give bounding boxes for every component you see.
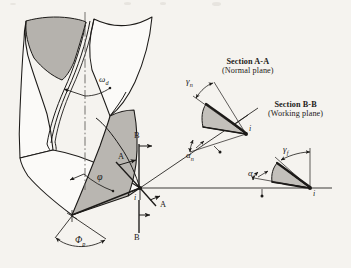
alpha-n-subscript: n [191,155,194,162]
section-b-clearance-angle-label: αf [248,168,255,181]
gamma-n-subscript: n [190,81,193,88]
section-a-rake-angle-arc [196,83,213,98]
section-a-alpha-dot-leader [214,146,220,152]
scan-artifact-1 [10,3,16,5]
phi-symbol: φ [97,171,103,182]
helix-angle-leader [64,89,85,96]
section-b-title-text: Section B-B [274,100,316,109]
arc-angle-label: Φp [75,235,86,248]
section-a-clearance-construction-line [190,134,246,152]
drill-geometry-svg [0,0,351,268]
helix-angle-label: ωd [99,74,109,87]
section-a-marker-bottom: A [160,200,166,209]
section-b-marker-top: B [134,131,140,140]
figure-root: Section A-A (Normal plane) Section B-B (… [0,0,351,268]
section-a-plane-text: (Normal plane) [222,66,274,75]
section-b-plane-text: (Working plane) [268,109,323,118]
section-a-arrow-lower [150,196,160,200]
section-a-rake-angle-label: γn [186,76,193,89]
arc-angle-left-ray [55,216,72,238]
section-a-point-label: i [249,125,251,134]
section-a-marker-top: A [118,152,124,161]
scan-artifact-4 [212,2,221,6]
point-angle-label: φ [97,171,103,182]
section-a-cut-line-lower [140,188,156,206]
gamma-f-subscript: f [287,149,289,156]
scan-artifact-3 [160,2,166,5]
section-b-rake-angle-label: γf [283,144,288,157]
phi-p-subscript: p [82,240,85,247]
section-a-title-text: Section A-A [226,57,269,66]
drill-body-group [19,17,152,215]
section-a-title: Section A-A (Normal plane) [222,57,274,75]
section-a-detail-group [190,82,248,154]
alpha-f-subscript: f [253,173,255,180]
scan-artifact-2 [124,2,131,5]
section-b-title: Section B-B (Working plane) [268,100,323,118]
drill-flute-shaded-upper [26,17,86,80]
section-b-marker-bottom: B [134,233,140,242]
drill-cutting-point-label: i [134,194,136,203]
omega-subscript: d [105,79,108,86]
section-a-clearance-angle-label: αn [186,150,194,163]
section-b-clearance-leader [258,171,268,177]
section-b-point-label: i [313,190,315,199]
